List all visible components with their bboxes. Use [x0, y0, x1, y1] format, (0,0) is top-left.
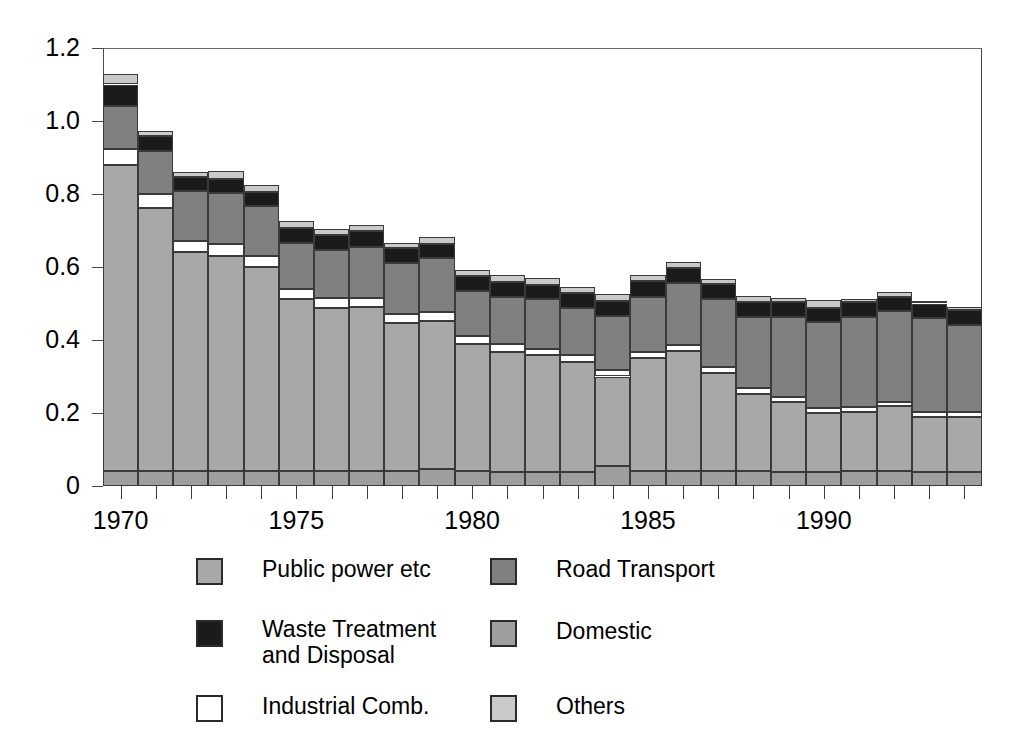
x-axis-tick-label: 1975: [269, 508, 325, 533]
bar-segment-waste-treatment-and-disposal: [173, 177, 208, 191]
legend-swatch-icon: [490, 558, 517, 585]
bar-segment-road-transport: [666, 283, 701, 344]
bar-segment-domestic: [419, 469, 454, 486]
y-axis-tick-label: 0: [2, 473, 80, 498]
bar-segment-waste-treatment-and-disposal: [208, 179, 243, 193]
bar-segment-road-transport: [912, 318, 947, 412]
legend-label: Waste Treatment and Disposal: [262, 616, 436, 668]
bar-1989: [771, 48, 806, 486]
legend-label: Others: [556, 693, 625, 720]
bar-segment-industrial-comb: [806, 408, 841, 413]
bar-segment-domestic: [138, 471, 173, 486]
legend-swatch-icon: [490, 695, 517, 722]
bar-segment-public-power-etc: [560, 362, 595, 472]
bar-1971: [138, 48, 173, 486]
x-axis-tick: [929, 486, 930, 499]
bar-segment-others: [279, 221, 314, 228]
bar-segment-others: [349, 225, 384, 231]
bar-segment-domestic: [771, 472, 806, 486]
x-axis-tick: [859, 486, 860, 499]
bar-segment-waste-treatment-and-disposal: [771, 302, 806, 317]
bar-segment-others: [560, 287, 595, 294]
bar-segment-road-transport: [138, 151, 173, 194]
bar-segment-waste-treatment-and-disposal: [701, 284, 736, 299]
bar-segment-road-transport: [349, 247, 384, 298]
bar-1994: [947, 48, 982, 486]
legend-item-industrial-comb[interactable]: Industrial Comb.: [196, 693, 429, 722]
x-axis-tick: [789, 486, 790, 499]
bar-segment-road-transport: [279, 243, 314, 289]
legend-item-public-power-etc[interactable]: Public power etc: [196, 556, 431, 585]
x-axis-tick: [156, 486, 157, 499]
bar-1986: [666, 48, 701, 486]
bar-segment-road-transport: [244, 206, 279, 256]
x-axis-tick: [367, 486, 368, 499]
bar-segment-road-transport: [314, 250, 349, 298]
x-axis-tick-label: 1990: [796, 508, 852, 533]
bar-segment-domestic: [208, 471, 243, 486]
bar-segment-public-power-etc: [947, 417, 982, 472]
bar-segment-domestic: [455, 471, 490, 486]
bar-segment-others: [806, 300, 841, 307]
x-axis-tick: [332, 486, 333, 499]
bar-segment-industrial-comb: [419, 312, 454, 321]
bar-1984: [595, 48, 630, 486]
bar-segment-public-power-etc: [912, 417, 947, 472]
legend-swatch-icon: [196, 695, 223, 722]
x-axis-tick: [296, 486, 297, 499]
bar-segment-public-power-etc: [595, 377, 630, 466]
bar-segment-others: [244, 185, 279, 192]
y-axis-tick-label: 0.4: [2, 327, 80, 352]
bar-segment-others: [701, 279, 736, 284]
bar-segment-waste-treatment-and-disposal: [384, 248, 419, 263]
bar-segment-industrial-comb: [138, 194, 173, 208]
bar-1980: [455, 48, 490, 486]
bar-segment-others: [771, 298, 806, 302]
bar-segment-industrial-comb: [560, 355, 595, 362]
legend-swatch-icon: [196, 558, 223, 585]
bar-segment-industrial-comb: [279, 289, 314, 299]
bar-segment-others: [595, 294, 630, 301]
bar-1988: [736, 48, 771, 486]
bar-segment-public-power-etc: [630, 358, 665, 470]
bar-segment-others: [630, 275, 665, 282]
bar-segment-waste-treatment-and-disposal: [912, 304, 947, 319]
bar-segment-domestic: [279, 471, 314, 486]
y-axis-tick: [92, 48, 103, 49]
bar-segment-industrial-comb: [455, 336, 490, 344]
y-axis-tick: [92, 121, 103, 122]
bar-segment-public-power-etc: [384, 323, 419, 471]
plot-area: [103, 48, 982, 486]
bar-segment-industrial-comb: [314, 298, 349, 307]
bar-segment-road-transport: [560, 308, 595, 355]
y-axis-tick-label: 0.8: [2, 181, 80, 206]
y-axis: 00.20.40.60.81.01.2: [0, 0, 103, 743]
legend-item-waste-treatment-and-disposal[interactable]: Waste Treatment and Disposal: [196, 618, 436, 668]
bar-1976: [314, 48, 349, 486]
bar-segment-waste-treatment-and-disposal: [349, 231, 384, 246]
legend-label: Domestic: [556, 618, 652, 645]
legend-swatch-icon: [196, 620, 223, 647]
legend-item-road-transport[interactable]: Road Transport: [490, 556, 715, 585]
bar-segment-public-power-etc: [736, 394, 771, 471]
bar-1982: [525, 48, 560, 486]
bar-1974: [244, 48, 279, 486]
bar-segment-domestic: [877, 471, 912, 486]
bar-segment-road-transport: [173, 191, 208, 241]
bar-1977: [349, 48, 384, 486]
bar-segment-domestic: [314, 471, 349, 486]
bar-segment-others: [736, 296, 771, 302]
bar-segment-industrial-comb: [771, 397, 806, 402]
bar-segment-industrial-comb: [912, 412, 947, 416]
legend-item-domestic[interactable]: Domestic: [490, 618, 652, 647]
bar-segment-road-transport: [595, 316, 630, 370]
x-axis-tick: [964, 486, 965, 499]
bar-segment-domestic: [349, 471, 384, 486]
legend-item-others[interactable]: Others: [490, 693, 625, 722]
bar-segment-domestic: [701, 471, 736, 486]
bar-segment-domestic: [666, 471, 701, 486]
bar-1987: [701, 48, 736, 486]
bar-segment-road-transport: [490, 297, 525, 344]
bar-segment-others: [525, 278, 560, 285]
x-axis-tick: [613, 486, 614, 499]
